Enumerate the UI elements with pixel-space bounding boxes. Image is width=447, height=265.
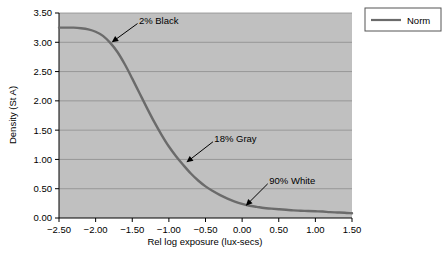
x-tick-label: −2.00 bbox=[84, 224, 108, 235]
x-axis-ticks bbox=[59, 218, 352, 222]
x-tick-label: 1.50 bbox=[343, 224, 362, 235]
y-tick-label: 3.00 bbox=[34, 37, 53, 48]
x-tick-label: 1.00 bbox=[306, 224, 325, 235]
y-axis-title: Density (St A) bbox=[7, 86, 18, 144]
x-tick-label: 0.00 bbox=[233, 224, 252, 235]
y-tick-label: 1.50 bbox=[34, 125, 53, 136]
y-tick-label: 1.00 bbox=[34, 154, 53, 165]
figure-container: 0.000.501.001.502.002.503.003.50 −2.50−2… bbox=[0, 0, 447, 265]
x-axis-tick-labels: −2.50−2.00−1.50−1.00−0.500.000.501.001.5… bbox=[47, 224, 361, 235]
density-curve-chart: 0.000.501.001.502.002.503.003.50 −2.50−2… bbox=[0, 0, 447, 265]
y-axis-ticks bbox=[55, 13, 59, 218]
x-tick-label: 0.50 bbox=[270, 224, 289, 235]
annotation-label: 90% White bbox=[269, 175, 315, 186]
y-tick-label: 0.00 bbox=[34, 212, 53, 223]
x-axis-title: Rel log exposure (lux-secs) bbox=[147, 236, 262, 247]
y-tick-label: 2.50 bbox=[34, 66, 53, 77]
x-tick-label: −1.50 bbox=[120, 224, 144, 235]
legend[interactable]: Norm bbox=[365, 8, 441, 31]
y-tick-label: 2.00 bbox=[34, 95, 53, 106]
x-tick-label: −2.50 bbox=[47, 224, 71, 235]
y-tick-label: 3.50 bbox=[34, 7, 53, 18]
y-tick-label: 0.50 bbox=[34, 183, 53, 194]
annotation-label: 18% Gray bbox=[214, 133, 256, 144]
annotation-label: 2% Black bbox=[139, 15, 179, 26]
x-tick-label: −1.00 bbox=[157, 224, 181, 235]
legend-item-label: Norm bbox=[407, 15, 430, 26]
y-axis-tick-labels: 0.000.501.001.502.002.503.003.50 bbox=[34, 7, 53, 223]
x-tick-label: −0.50 bbox=[193, 224, 217, 235]
